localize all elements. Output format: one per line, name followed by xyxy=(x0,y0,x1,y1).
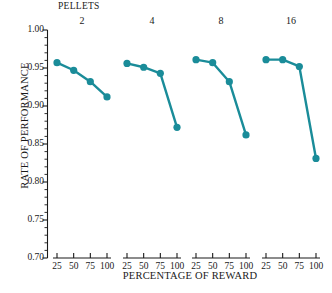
plot-area xyxy=(0,0,332,293)
axes xyxy=(43,30,321,258)
y-axis-tick-labels: 1.000.950.900.850.800.750.70 xyxy=(14,0,44,293)
data-series xyxy=(53,56,319,162)
data-point xyxy=(173,124,180,131)
data-point xyxy=(262,56,269,63)
x-axis-tick-label: 50 xyxy=(69,262,79,272)
chart-figure: PELLETS RATE OF PERFORMANCE PERCENTAGE O… xyxy=(0,0,332,293)
y-axis-tick-label: 0.80 xyxy=(18,177,44,187)
x-axis-title: PERCENTAGE OF REWARD xyxy=(48,270,332,281)
y-axis-tick-label: 0.75 xyxy=(18,215,44,225)
x-axis-tick-label: 75 xyxy=(156,262,166,272)
chart-title: PELLETS xyxy=(58,1,100,11)
x-axis-tick-label: 50 xyxy=(208,262,218,272)
series-line xyxy=(57,63,107,97)
panel-label: 2 xyxy=(80,16,85,26)
x-axis-tick-label: 100 xyxy=(239,262,253,272)
x-axis-tick-label: 100 xyxy=(170,262,184,272)
data-point xyxy=(226,78,233,85)
x-axis-tick-label: 75 xyxy=(225,262,235,272)
x-axis-tick-label: 75 xyxy=(295,262,305,272)
x-axis-tick-label: 25 xyxy=(261,262,271,272)
data-point xyxy=(209,59,216,66)
x-axis-tick-label: 25 xyxy=(191,262,201,272)
series-line xyxy=(196,60,246,135)
data-point xyxy=(242,131,249,138)
data-point xyxy=(192,56,199,63)
y-axis-tick-label: 1.00 xyxy=(18,25,44,35)
x-axis-tick-label: 50 xyxy=(139,262,149,272)
data-point xyxy=(87,78,94,85)
data-point xyxy=(53,59,60,66)
y-axis-tick-label: 0.70 xyxy=(18,253,44,263)
data-point xyxy=(103,93,110,100)
x-axis-tick-label: 75 xyxy=(86,262,96,272)
data-point xyxy=(140,64,147,71)
data-point xyxy=(279,56,286,63)
data-point xyxy=(123,60,130,67)
series-line xyxy=(127,63,177,127)
y-axis-tick-label: 0.90 xyxy=(18,101,44,111)
x-axis-tick-label: 25 xyxy=(122,262,132,272)
y-axis-tick-label: 0.85 xyxy=(18,139,44,149)
data-point xyxy=(157,70,164,77)
data-point xyxy=(312,155,319,162)
x-axis-tick-label: 50 xyxy=(278,262,288,272)
x-axis-tick-label: 100 xyxy=(100,262,114,272)
panel-label: 16 xyxy=(286,16,296,26)
x-axis-tick-label: 25 xyxy=(52,262,62,272)
x-axis-tick-label: 100 xyxy=(309,262,323,272)
panel-label: 4 xyxy=(150,16,155,26)
panel-label: 8 xyxy=(219,16,224,26)
data-point xyxy=(70,67,77,74)
y-axis-tick-label: 0.95 xyxy=(18,63,44,73)
data-point xyxy=(296,63,303,70)
series-line xyxy=(266,60,316,159)
